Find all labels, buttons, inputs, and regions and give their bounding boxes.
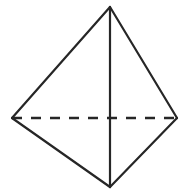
tetrahedron-figure (0, 0, 186, 189)
tetrahedron-svg (0, 0, 186, 189)
figure-background (0, 0, 186, 189)
